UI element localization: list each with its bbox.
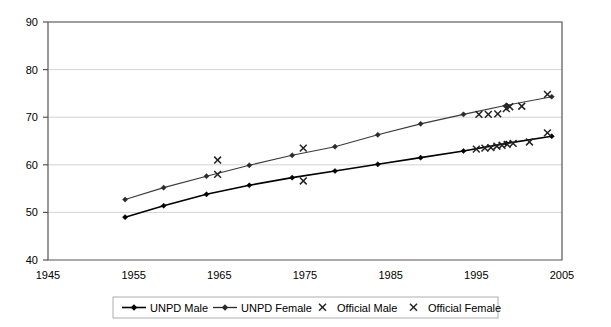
y-axis-ticks: [43, 22, 48, 260]
series-line: [125, 97, 552, 200]
data-point-marker: [214, 157, 221, 164]
data-point-marker: [332, 144, 337, 149]
data-series-layer: [123, 91, 555, 220]
y-axis-label-60: 60: [26, 159, 38, 171]
y-axis-label-40: 40: [26, 254, 38, 266]
data-point-marker: [418, 155, 423, 160]
x-axis-label-1975: 1975: [293, 269, 317, 281]
series-line: [125, 136, 552, 217]
plot-area-border: [48, 22, 562, 260]
y-axis-label-80: 80: [26, 64, 38, 76]
legend-label-official-female: Official Female: [428, 302, 501, 314]
data-point-marker: [461, 148, 466, 153]
data-point-marker: [161, 203, 166, 208]
data-point-marker: [247, 163, 252, 168]
data-point-marker: [487, 144, 494, 151]
data-point-marker: [375, 162, 380, 167]
data-point-marker: [544, 130, 551, 137]
y-axis-label-90: 90: [26, 16, 38, 28]
x-axis-label-1995: 1995: [464, 269, 488, 281]
data-point-marker: [544, 91, 551, 98]
chart-container: 90 80 70 60 50 40 1945 1955 1965 1975 19…: [0, 0, 611, 327]
data-point-marker: [247, 183, 252, 188]
data-point-marker: [494, 110, 501, 117]
data-point-marker: [204, 192, 209, 197]
legend-label-unpd-female: UNPD Female: [241, 302, 312, 314]
x-axis-labels: 1945 1955 1965 1975 1985 1995 2005: [36, 269, 574, 281]
series-official-male: [214, 130, 551, 185]
x-axis-label-1955: 1955: [121, 269, 145, 281]
y-axis-label-70: 70: [26, 111, 38, 123]
data-point-marker: [518, 103, 525, 110]
life-expectancy-line-chart: 90 80 70 60 50 40 1945 1955 1965 1975 19…: [0, 0, 611, 327]
y-axis-labels: 90 80 70 60 50 40: [26, 16, 38, 266]
x-axis-label-1965: 1965: [207, 269, 231, 281]
data-point-marker: [204, 174, 209, 179]
data-point-marker: [375, 132, 380, 137]
data-point-marker: [332, 168, 337, 173]
data-point-marker: [290, 175, 295, 180]
data-point-marker: [300, 145, 307, 152]
data-point-marker: [123, 197, 128, 202]
x-axis-label-1985: 1985: [378, 269, 402, 281]
x-axis-label-2005: 2005: [550, 269, 574, 281]
data-point-marker: [418, 121, 423, 126]
data-point-marker: [461, 112, 466, 117]
series-official-female: [214, 91, 551, 163]
x-axis-label-1945: 1945: [36, 269, 60, 281]
chart-legend: UNPD Male UNPD Female Official Male: [113, 297, 501, 318]
data-point-marker: [476, 111, 483, 118]
data-point-marker: [123, 215, 128, 220]
data-point-marker: [290, 153, 295, 158]
data-point-marker: [300, 178, 307, 185]
legend-label-unpd-male: UNPD Male: [150, 302, 208, 314]
y-axis-label-50: 50: [26, 206, 38, 218]
data-point-marker: [485, 111, 492, 118]
data-point-marker: [161, 185, 166, 190]
legend-label-official-male: Official Male: [337, 302, 397, 314]
